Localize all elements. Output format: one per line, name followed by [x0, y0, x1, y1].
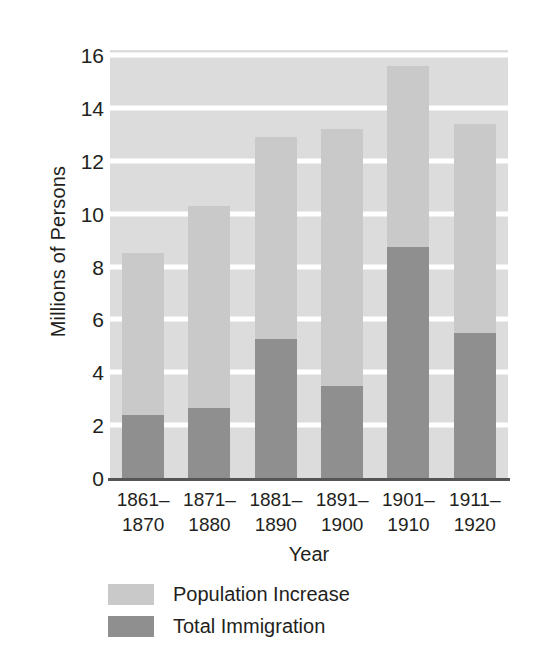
bar-segment-total-immigration [122, 415, 164, 478]
x-tick-label: 1911–1920 [443, 487, 507, 547]
y-tick-label: 12 [56, 150, 104, 171]
legend-label: Population Increase [173, 583, 350, 606]
legend-item: Population Increase [108, 578, 468, 610]
y-tick-label: 14 [56, 98, 104, 119]
legend-swatch [108, 584, 154, 605]
bar-segment-total-immigration [188, 408, 230, 478]
y-axis-tick-labels: 0246810121416 [56, 50, 104, 478]
x-tick-label-line: 1891– [310, 487, 374, 512]
bar-segment-population-increase [387, 66, 429, 247]
x-tick-label: 1891–1900 [310, 487, 374, 547]
y-tick-label: 4 [56, 362, 104, 383]
x-tick-label: 1881–1890 [244, 487, 308, 547]
y-tick-label: 16 [56, 45, 104, 66]
bar-segment-total-immigration [255, 339, 297, 478]
x-tick-label: 1871–1880 [177, 487, 241, 547]
y-tick-label: 8 [56, 256, 104, 277]
x-axis-line [108, 478, 510, 481]
legend-label: Total Immigration [173, 615, 325, 638]
x-tick-label-line: 1861– [111, 487, 175, 512]
bar-segment-total-immigration [454, 333, 496, 478]
bar-segment-population-increase [454, 124, 496, 333]
y-tick-label: 0 [56, 468, 104, 489]
x-tick-label-line: 1871– [177, 487, 241, 512]
x-tick-label: 1901–1910 [376, 487, 440, 547]
stacked-bar [387, 66, 429, 478]
bar-segment-total-immigration [321, 386, 363, 478]
chart-legend: Population IncreaseTotal Immigration [108, 578, 468, 642]
y-tick-label: 10 [56, 203, 104, 224]
x-tick-label: 1861–1870 [111, 487, 175, 547]
x-tick-label-line: 1870 [111, 512, 175, 537]
x-tick-label-line: 1901– [376, 487, 440, 512]
bar-segment-population-increase [122, 253, 164, 414]
stacked-bar [188, 206, 230, 478]
plot-area [110, 50, 508, 478]
stacked-bar [454, 124, 496, 478]
bar-group [110, 50, 508, 478]
x-tick-label-line: 1890 [244, 512, 308, 537]
chart-figure: Millions of Persons 0246810121416 1861–1… [0, 0, 544, 660]
legend-item: Total Immigration [108, 610, 468, 642]
x-tick-label-line: 1880 [177, 512, 241, 537]
bar-segment-total-immigration [387, 247, 429, 478]
bar-segment-population-increase [188, 206, 230, 408]
stacked-bar [255, 137, 297, 478]
stacked-bar [321, 129, 363, 478]
bar-segment-population-increase [321, 129, 363, 385]
x-axis-title: Year [110, 543, 508, 566]
x-axis-tick-labels: 1861–18701871–18801881–18901891–19001901… [110, 487, 508, 547]
stacked-bar [122, 253, 164, 478]
y-tick-label: 6 [56, 309, 104, 330]
y-tick-label: 2 [56, 415, 104, 436]
x-tick-label-line: 1920 [443, 512, 507, 537]
x-tick-label-line: 1910 [376, 512, 440, 537]
x-tick-label-line: 1911– [443, 487, 507, 512]
x-tick-label-line: 1881– [244, 487, 308, 512]
legend-swatch [108, 616, 154, 637]
bar-segment-population-increase [255, 137, 297, 339]
x-tick-label-line: 1900 [310, 512, 374, 537]
